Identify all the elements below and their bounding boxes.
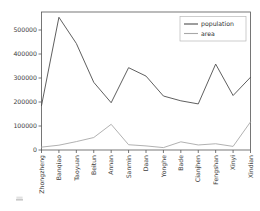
y-tick-label: 400000 xyxy=(13,50,37,57)
x-tick-label: Fengshan xyxy=(212,155,220,185)
x-tick-label: Xinyi xyxy=(229,155,237,171)
x-tick-label: Daan xyxy=(142,155,149,171)
chart-legend: populationarea xyxy=(180,17,246,42)
y-tick-label: 0 xyxy=(33,146,37,153)
x-tick-label: Sanmin xyxy=(125,155,132,178)
x-tick-label: Annan xyxy=(107,155,114,175)
x-tick-label: Xindian xyxy=(247,155,254,178)
y-tick-label: 200000 xyxy=(13,98,37,105)
y-tick-label: 500000 xyxy=(13,26,37,33)
x-tick-label: Yonghe xyxy=(160,155,168,179)
x-tick-label: Bade xyxy=(177,155,184,171)
x-tick-label: Taoyuan xyxy=(73,155,81,182)
legend-label-area: area xyxy=(201,30,215,37)
y-tick-label: 300000 xyxy=(13,74,37,81)
legend-label-population: population xyxy=(201,20,234,28)
x-tick-label: Beitun xyxy=(90,155,97,175)
chart-figure: 0100000200000300000400000500000 Zhongzhe… xyxy=(0,0,260,211)
page-artifact xyxy=(16,197,23,201)
x-tick-label: Banqiao xyxy=(55,155,63,180)
x-tick-label: Cianjhen xyxy=(194,155,202,182)
y-tick-label: 100000 xyxy=(13,122,37,129)
x-tick-label: Zhongzheng xyxy=(38,155,46,194)
